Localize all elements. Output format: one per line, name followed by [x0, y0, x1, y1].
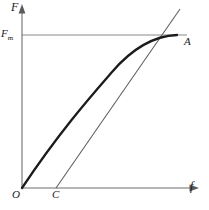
- friction-force-diagram: F Fm A O C f: [0, 0, 209, 210]
- max-force-symbol: F: [1, 27, 8, 39]
- threshold-point-label: C: [52, 189, 59, 200]
- max-force-label: Fm: [1, 28, 13, 42]
- max-force-subscript: m: [8, 34, 13, 42]
- offset-straight-line: [56, 9, 180, 188]
- y-axis-label: F: [11, 1, 18, 13]
- saturating-friction-curve: [22, 35, 177, 188]
- origin-label: O: [12, 189, 20, 200]
- diagram-canvas: [0, 0, 209, 210]
- x-axis-label: f: [190, 180, 193, 192]
- intersection-point-label: A: [184, 36, 191, 47]
- y-axis-arrow-icon: [19, 4, 26, 14]
